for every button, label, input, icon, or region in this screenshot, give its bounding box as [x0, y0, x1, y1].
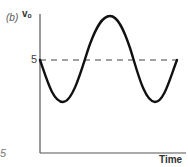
waveform-curve: [40, 16, 177, 102]
waveform-plot: [0, 0, 188, 167]
